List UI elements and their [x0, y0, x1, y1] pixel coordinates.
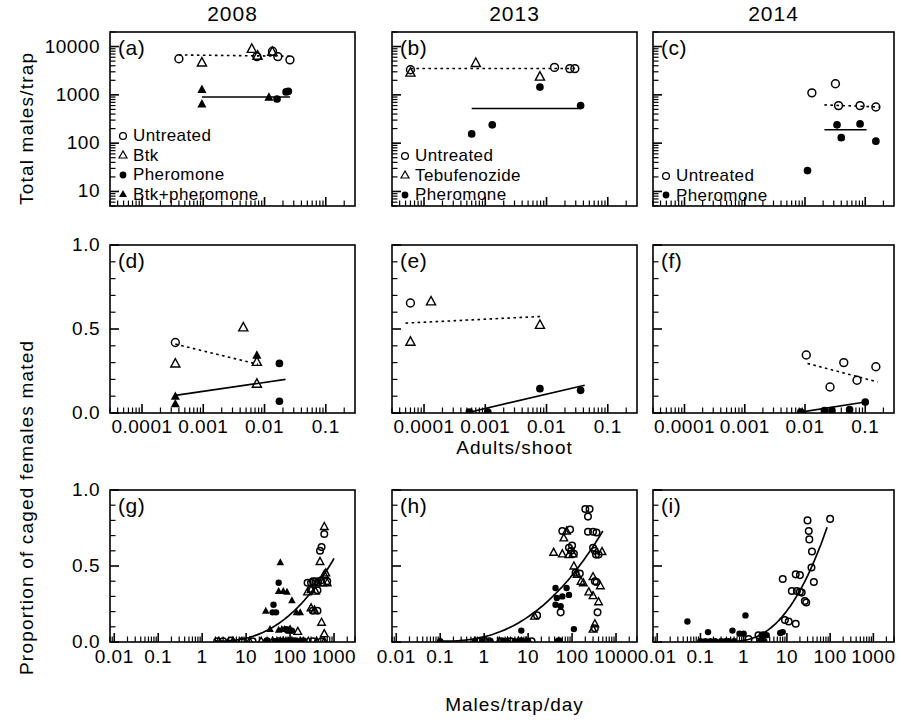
- panel-label-h: (h): [400, 494, 427, 518]
- fit-line: [824, 105, 879, 107]
- fit-lines: [824, 105, 879, 130]
- fit-line: [406, 316, 543, 323]
- data-points: [175, 44, 294, 108]
- column-title-2008: 2008: [110, 2, 355, 26]
- fit-lines: [406, 316, 585, 412]
- plot-frame: [392, 490, 637, 642]
- x-axis-ticks: [392, 404, 626, 413]
- legend-entry-btk-pheromone: Btk+pheromone: [116, 185, 259, 205]
- column-title-2013: 2013: [392, 2, 637, 26]
- x-axis-ticks: [110, 404, 344, 413]
- series-pheromone: [684, 612, 786, 644]
- panel-label-d: (d): [118, 249, 145, 273]
- plot-frame: [392, 245, 637, 413]
- series-pheromone: [437, 585, 577, 645]
- series-btk-pheromone: [262, 558, 304, 644]
- fit-line: [175, 379, 285, 395]
- legend-entry-pheromone: Pheromone: [116, 165, 259, 185]
- legend-label: Untreated: [133, 126, 211, 146]
- y-tick-label-0.5: 0.5: [0, 555, 100, 577]
- legend-label: Untreated: [676, 166, 754, 186]
- column-title-2014: 2014: [653, 2, 894, 26]
- panel-label-f: (f): [661, 249, 682, 273]
- fit-line: [801, 402, 866, 412]
- legend-label: Btk+pheromone: [133, 185, 259, 205]
- fit-lines: [440, 531, 603, 641]
- y-tick-label-1000: 1000: [0, 84, 100, 106]
- series-untreated: [407, 299, 415, 307]
- series-btk: [215, 522, 331, 644]
- fit-lines: [175, 344, 285, 395]
- legend-b: UntreatedTebufenozidePheromone: [398, 146, 521, 205]
- x-tick-label-0.1: 0.1: [281, 416, 371, 438]
- fit-line: [469, 385, 584, 412]
- legend-label: Pheromone: [415, 185, 507, 205]
- panel-label-g: (g): [118, 494, 145, 518]
- x-axis-ticks: [392, 633, 637, 642]
- plot-frame: [110, 490, 355, 642]
- y-tick-label-1.0: 1.0: [0, 479, 100, 501]
- y-tick-label-0.0: 0.0: [0, 402, 100, 424]
- data-points: [406, 296, 585, 416]
- data-points: [171, 323, 283, 408]
- y-tick-label-1.0: 1.0: [0, 234, 100, 256]
- fit-lines: [410, 69, 580, 109]
- series-untreated: [214, 531, 331, 645]
- series-tebufenozide: [406, 58, 545, 80]
- plot-frame: [110, 245, 355, 413]
- legend-label: Pheromone: [676, 186, 768, 206]
- panel-label-i: (i): [661, 494, 681, 518]
- series-untreated: [808, 80, 880, 111]
- series-tebufenozide: [406, 296, 545, 345]
- series-pheromone: [264, 580, 308, 645]
- series-untreated: [407, 63, 579, 73]
- y-tick-label-100: 100: [0, 132, 100, 154]
- data-points: [406, 58, 585, 138]
- data-points: [214, 522, 331, 644]
- y-tick-label-0.5: 0.5: [0, 318, 100, 340]
- legend-a: UntreatedBtkPheromoneBtk+pheromone: [116, 126, 259, 204]
- panel-label-e: (e): [400, 249, 427, 273]
- series-pheromone: [276, 360, 284, 405]
- x-axis-ticks: [653, 633, 894, 642]
- series-tebufenozide: [471, 527, 606, 644]
- panel-label-b: (b): [400, 36, 427, 60]
- series-btk: [171, 323, 262, 388]
- fit-lines: [215, 558, 334, 641]
- fit-curve: [440, 531, 603, 641]
- open-triangle-icon: [116, 148, 130, 162]
- fit-lines: [179, 55, 292, 97]
- legend-entry-btk: Btk: [116, 146, 259, 166]
- legend-c: UntreatedPheromone: [659, 166, 768, 205]
- series-pheromone: [797, 398, 869, 416]
- x-axis-ticks: [653, 404, 883, 413]
- series-pheromone: [804, 120, 880, 174]
- open-circle-icon: [398, 149, 412, 163]
- series-pheromone: [273, 88, 292, 103]
- filled-triangle-icon: [116, 187, 130, 201]
- x-axis-title-adults-shoot: Adults/shoot: [392, 437, 637, 459]
- fit-curve: [215, 558, 334, 641]
- x-tick-label-1000: 1000: [828, 646, 899, 668]
- series-untreated: [175, 47, 294, 64]
- x-tick-label-0.1: 0.1: [820, 416, 899, 438]
- panel-label-c: (c): [661, 36, 687, 60]
- panel-label-a: (a): [118, 36, 145, 60]
- legend-label: Tebufenozide: [415, 166, 521, 186]
- series-pheromone: [468, 83, 585, 138]
- series-untreated: [802, 351, 879, 391]
- open-triangle-icon: [398, 168, 412, 182]
- series-btk-pheromone: [197, 85, 273, 108]
- series-untreated: [745, 516, 833, 643]
- filled-circle-icon: [116, 168, 130, 182]
- series-pheromone: [466, 385, 585, 416]
